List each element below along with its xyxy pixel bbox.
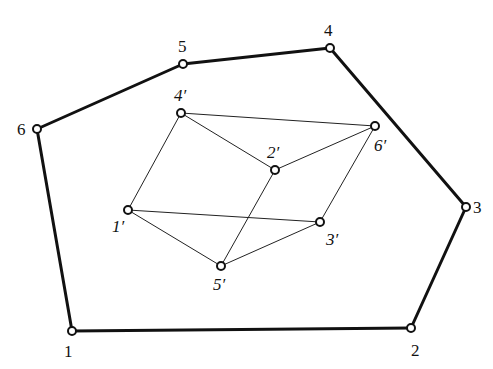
vertex-labels: 1234561′2′3′4′5′6′ [17,21,482,361]
outer-vertex-2 [407,324,415,332]
outer-edge-3-4 [330,48,466,207]
inner-vertex-2p [271,166,279,174]
outer-vertex-label-6: 6 [17,120,26,139]
inner-vertex-6p [371,122,379,130]
outer-vertex-label-4: 4 [324,21,333,40]
outer-edge-1-2 [72,328,411,331]
inner-vertex-label-3p: 3′ [325,230,339,249]
inner-vertex-label-2p: 2′ [267,143,280,162]
inner-vertex-label-1p: 1′ [112,217,125,236]
inner-vertex-5p [217,262,225,270]
inner-edge-2p-6p [275,126,375,170]
outer-edge-4-5 [183,48,330,64]
outer-vertices [33,44,470,335]
outer-vertex-4 [326,44,334,52]
diagram-svg: 1234561′2′3′4′5′6′ [0,0,493,369]
inner-edge-4p-1p [128,113,181,210]
inner-edge-4p-6p [181,113,375,126]
inner-vertex-1p [124,206,132,214]
inner-edge-1p-5p [128,210,221,266]
inner-edge-1p-3p [128,210,320,222]
outer-hexagon-edges [37,48,466,331]
graph-diagram: 1234561′2′3′4′5′6′ [0,0,493,369]
outer-vertex-label-3: 3 [473,198,482,217]
inner-vertex-label-5p: 5′ [213,275,226,294]
outer-edge-5-6 [37,64,183,129]
outer-vertex-3 [462,203,470,211]
inner-vertex-label-6p: 6′ [374,136,387,155]
inner-vertex-label-4p: 4′ [174,86,187,105]
inner-vertex-4p [177,109,185,117]
inner-edge-5p-3p [221,222,320,266]
outer-edge-6-1 [37,129,72,331]
outer-vertex-label-2: 2 [411,341,420,360]
inner-edge-4p-2p [181,113,275,170]
outer-edge-2-3 [411,207,466,328]
inner-edge-6p-3p [320,126,375,222]
outer-vertex-1 [68,327,76,335]
outer-vertex-6 [33,125,41,133]
inner-vertex-3p [316,218,324,226]
inner-vertices [124,109,379,270]
outer-vertex-label-1: 1 [64,342,73,361]
outer-vertex-5 [179,60,187,68]
outer-vertex-label-5: 5 [178,37,187,56]
